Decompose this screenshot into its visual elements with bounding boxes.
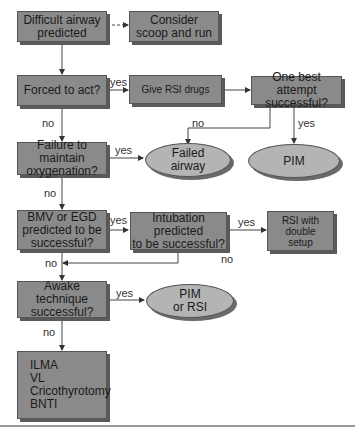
edge-label-intubation-no: no	[221, 253, 233, 265]
edge-label-attempt-no: no	[192, 117, 204, 129]
node-failed-airway: Failed airway	[145, 143, 231, 177]
node-give-rsi-drugs: Give RSI drugs	[129, 75, 222, 104]
node-forced-to-act: Forced to act?	[17, 75, 107, 106]
node-intubation-predicted: Intubation predicted to be successful?	[130, 212, 227, 250]
bottom-divider	[0, 425, 355, 427]
edge-label-oxygenation-no: no	[44, 187, 56, 199]
edge-label-attempt-yes: yes	[298, 117, 315, 129]
node-difficult-airway-predicted: Difficult airway predicted	[17, 11, 107, 42]
edge-label-awake-no: no	[43, 326, 55, 338]
edge-label-oxygenation-yes: yes	[115, 144, 132, 156]
edge-label-awake-yes: yes	[116, 287, 133, 299]
node-alternatives: ILMA VL Cricothyrotomy BNTI	[17, 351, 107, 419]
edge-label-bmv-yes: yes	[110, 214, 127, 226]
node-failure-to-maintain-oxygenation: Failure to maintain oxygenation?	[17, 142, 107, 175]
node-pim-or-rsi: PIM or RSI	[146, 284, 234, 318]
edge-label-intubation-yes: yes	[238, 216, 255, 228]
node-awake-technique: Awake technique successful?	[17, 281, 107, 318]
node-one-best-attempt: One best attempt successful?	[251, 76, 342, 105]
node-bmv-or-egd: BMV or EGD predicted to be successful?	[17, 210, 107, 250]
node-rsi-double-setup: RSI with double setup	[267, 211, 334, 251]
node-consider-scoop-and-run: Consider scoop and run	[129, 11, 219, 42]
edge-label-forced-yes: yes	[110, 76, 127, 88]
edge-label-bmv-no: no	[45, 257, 57, 269]
edge-label-forced-no: no	[42, 117, 54, 129]
node-pim: PIM	[248, 144, 340, 178]
